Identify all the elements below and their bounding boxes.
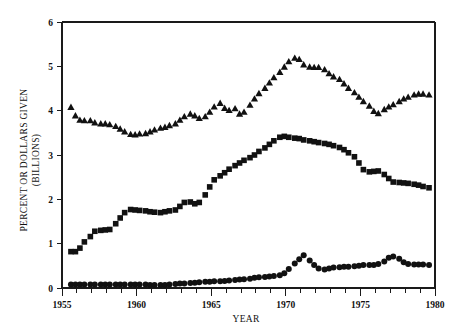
data-point-circle [211,278,217,284]
data-point-circle [375,261,381,267]
x-tick-label: 1965 [202,300,221,310]
data-point-circle [316,265,322,271]
data-point-circle [166,281,172,287]
data-point-circle [122,281,128,287]
x-tick-label: 1960 [127,300,146,310]
data-point-circle [271,273,277,279]
data-point-circle [426,262,432,268]
data-point-square [331,143,337,149]
y-tick-label: 6 [48,18,53,28]
data-point-circle [345,264,351,270]
y-axis-title-line1: PERCENT OR DOLLARS GIVEN [19,89,29,232]
data-point-square [352,154,358,160]
data-point-square [390,179,396,185]
data-point-circle [81,281,87,287]
data-point-circle [256,274,262,280]
y-tick-label: 3 [48,151,53,161]
x-tick-label: 1955 [53,300,72,310]
data-point-square [271,138,277,144]
data-point-circle [281,270,287,276]
data-point-square [211,177,217,183]
y-tick-label: 1 [48,239,53,249]
data-point-circle [107,281,113,287]
data-point-square [356,160,362,166]
data-point-circle [152,282,158,288]
x-axis-title: YEAR [232,314,259,324]
y-tick-label: 5 [48,62,53,72]
data-point-circle [301,252,307,258]
data-point-square [241,158,247,164]
data-point-square [426,185,432,191]
x-tick-label: 1970 [276,300,295,310]
chart-figure: 0123456 195519601965197019751980 YEAR PE… [0,0,459,333]
data-point-circle [181,281,187,287]
data-point-square [122,210,128,216]
y-axis-title-line2: (BILLIONS) [31,134,42,187]
data-point-circle [296,256,302,262]
data-point-square [226,166,232,172]
data-point-square [82,239,88,245]
data-point-square [182,200,188,206]
data-point-square [420,184,426,190]
y-tick-label: 2 [48,195,53,205]
data-point-square [92,228,98,234]
y-tick-label: 4 [48,106,53,116]
data-point-square [117,215,123,221]
data-point-circle [226,277,232,283]
data-point-square [346,150,352,156]
data-point-square [316,140,322,146]
data-point-circle [292,261,298,267]
data-point-circle [286,266,292,272]
data-point-circle [92,281,98,287]
data-point-square [137,208,143,214]
data-point-square [256,149,262,155]
data-point-square [405,181,411,187]
data-point-circle [137,281,143,287]
data-point-square [88,234,94,240]
x-tick-label: 1975 [351,300,370,310]
data-point-square [361,167,367,173]
data-point-circle [331,265,337,271]
x-tick-label: 1980 [426,300,445,310]
data-point-circle [196,279,202,285]
data-point-circle [360,262,366,268]
data-point-square [107,227,113,233]
data-point-square [167,208,173,214]
data-point-circle [420,262,426,268]
data-point-square [376,168,382,174]
data-point-square [207,184,213,190]
y-tick-label: 0 [48,284,53,294]
data-point-square [152,209,158,215]
data-point-square [77,245,83,251]
data-point-square [301,137,307,143]
data-point-square [196,200,202,206]
data-point-square [113,221,119,227]
data-point-circle [405,261,411,267]
data-point-square [202,192,208,198]
data-point-circle [241,276,247,282]
data-point-circle [307,258,313,264]
scatter-plot-svg: 0123456 195519601965197019751980 YEAR PE… [0,0,459,333]
data-point-circle [390,254,396,260]
data-point-square [286,134,292,140]
